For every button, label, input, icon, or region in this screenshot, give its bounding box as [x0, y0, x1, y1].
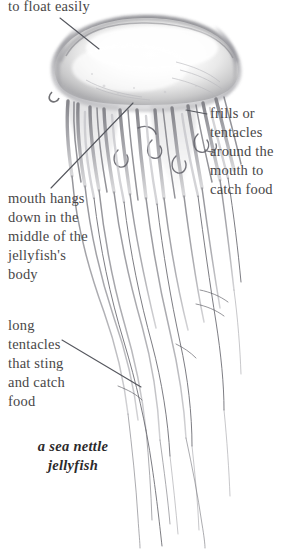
annotation-frills-tentacles: frills or tentacles around the mouth to … — [210, 104, 294, 199]
annotation-mouth-hangs-down: mouth hangs down in the middle of the je… — [8, 189, 128, 284]
figure-caption: a sea nettle jellyfish — [8, 437, 138, 475]
annotation-long-tentacles: long tentacles that sting and catch food — [8, 316, 118, 411]
jellyfish-diagram-page: to float easily frills or tentacles arou… — [0, 0, 294, 549]
annotation-float-easily: to float easily — [8, 0, 168, 16]
jellyfish-bell — [49, 15, 241, 112]
